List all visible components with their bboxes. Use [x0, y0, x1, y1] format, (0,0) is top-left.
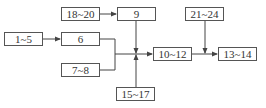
node-7-8: 7~8	[61, 63, 100, 77]
node-label: 13~14	[224, 49, 252, 60]
node-15-17: 15~17	[116, 87, 155, 101]
edge-7-8-join	[100, 54, 115, 70]
node-9: 9	[117, 7, 156, 21]
node-label: 15~17	[122, 89, 150, 100]
node-13-14: 13~14	[218, 47, 257, 61]
node-label: 7~8	[72, 65, 89, 76]
node-label: 1~5	[15, 34, 32, 45]
node-label: 21~24	[191, 9, 219, 20]
edge-6-join	[100, 39, 115, 54]
node-1-5: 1~5	[4, 32, 43, 46]
node-10-12: 10~12	[153, 47, 192, 61]
node-21-24: 21~24	[185, 7, 224, 21]
node-label: 6	[78, 34, 84, 45]
flow-diagram: 1~5 6 18~20 9 7~8 15~17 10~12 21~24 13~1…	[0, 0, 266, 108]
node-label: 9	[134, 9, 140, 20]
node-6: 6	[61, 32, 100, 46]
node-18-20: 18~20	[61, 7, 100, 21]
node-label: 10~12	[159, 49, 187, 60]
node-label: 18~20	[67, 9, 95, 20]
